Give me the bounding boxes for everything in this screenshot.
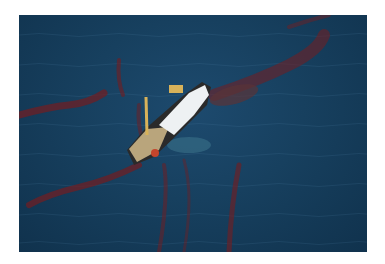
scene [19,15,367,252]
ship-wake [167,137,211,153]
photo-ocean-oil-spill-ship [19,15,367,252]
